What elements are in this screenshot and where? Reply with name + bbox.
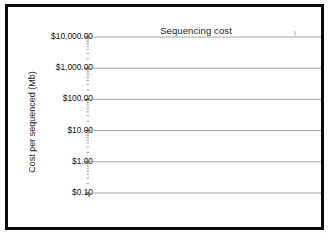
plot-area: [8, 7, 327, 233]
scan-artifact-speck: [294, 31, 296, 36]
gridlines: [85, 37, 321, 193]
figure-root: Sequencing cost Cost per sequenced (Mb) …: [0, 0, 329, 237]
chart-frame: Sequencing cost Cost per sequenced (Mb) …: [5, 4, 324, 230]
